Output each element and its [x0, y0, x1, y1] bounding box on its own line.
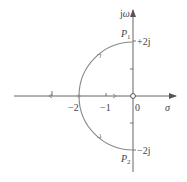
origin-label: 0	[135, 102, 140, 113]
tick-label-pos2j: +2j	[137, 36, 150, 47]
pole-label-p1: P1	[120, 28, 131, 41]
pole-label-p2: P2	[120, 153, 131, 166]
locus-arrow-upper	[97, 54, 101, 58]
real-axis-label: σ	[165, 102, 171, 113]
breakaway-point	[77, 94, 80, 97]
imag-axis-label: jω	[119, 8, 130, 19]
tick-label-neg2j: −2j	[137, 145, 150, 156]
tick-label-neg1: −1	[100, 102, 111, 113]
tick-label-neg2: −2	[68, 102, 79, 113]
zero-marker	[131, 94, 136, 99]
root-locus-diagram: jω σ 0 −2 −1 +2j −2j P1 P2	[0, 0, 187, 182]
locus-arrow-lower	[97, 134, 101, 138]
